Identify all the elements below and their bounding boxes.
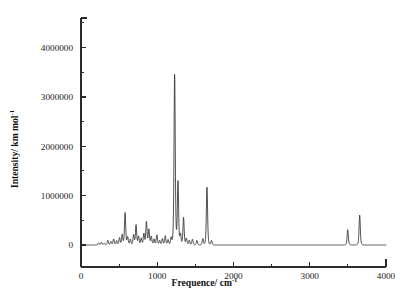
spectrum-trace (81, 74, 386, 245)
axis-group (81, 18, 386, 267)
y-tick-label: 3000000 (41, 92, 74, 102)
tick-group (81, 23, 386, 267)
x-axis-title: Frequence/ cm-1 (0, 272, 409, 290)
spectrum-plot: 0100000020000003000000400000001000200030… (0, 0, 409, 297)
x-axis-title-superscript: -1 (232, 276, 238, 283)
spectrum-figure: 0100000020000003000000400000001000200030… (0, 0, 409, 297)
data-series-group (81, 74, 386, 245)
y-axis-title: Intensity/ km mol-1 (6, 74, 22, 224)
y-axis-title-superscript: -1 (8, 110, 15, 116)
y-tick-label: 1000000 (41, 191, 74, 201)
y-tick-label: 4000000 (41, 43, 74, 53)
y-tick-label: 2000000 (41, 142, 74, 152)
y-axis-title-main: Intensity/ km mol (9, 116, 20, 189)
x-axis-title-main: Frequence/ cm (172, 277, 232, 288)
y-axis-title-text: Intensity/ km mol-1 (8, 110, 20, 188)
x-axis-title-text: Frequence/ cm-1 (172, 277, 238, 288)
y-tick-label: 0 (68, 240, 73, 250)
